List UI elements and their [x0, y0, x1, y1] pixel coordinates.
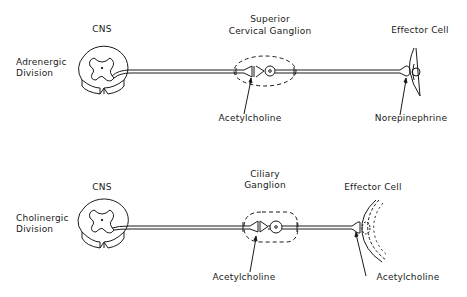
division-label-bottom-line1: Cholinergic: [16, 213, 69, 224]
postganglionic-axon-bottom: [297, 226, 352, 229]
division-label-top-line2: Division: [16, 68, 53, 79]
cns-spinal-cord-top: [79, 46, 128, 94]
ganglion-label-bottom-line2: Ganglion: [244, 180, 286, 191]
cns-spinal-cord-bottom: [78, 199, 128, 248]
ganglion-transmitter-top: Acetylcholine: [219, 113, 282, 124]
arrows-bottom: [250, 232, 366, 276]
ganglion-label-top-line2: Cervical Ganglion: [229, 26, 312, 37]
effector-label-bottom: Effector Cell: [344, 182, 402, 193]
postganglionic-axon-top: [295, 70, 400, 73]
diagram-canvas: [0, 0, 467, 297]
effector-label-top: Effector Cell: [391, 25, 449, 36]
preganglionic-axon-bottom: [112, 226, 244, 230]
effector-cell-bottom: [352, 200, 388, 262]
cns-label-bottom: CNS: [92, 182, 111, 193]
ganglion-label-top-line1: Superior: [250, 14, 290, 25]
ganglion-bottom: [243, 212, 298, 242]
division-label-bottom-line2: Division: [16, 224, 53, 235]
effector-cell-top: [400, 48, 420, 96]
cns-label-top: CNS: [92, 24, 111, 35]
effector-transmitter-bottom: Acetylcholine: [377, 272, 440, 283]
preganglionic-axon-top: [112, 70, 238, 78]
arrows-top: [244, 78, 407, 115]
ganglion-top: [234, 56, 296, 86]
division-label-top-line1: Adrenergic: [16, 57, 67, 68]
ganglion-transmitter-bottom: Acetylcholine: [213, 272, 276, 283]
effector-transmitter-top: Norepinephrine: [375, 113, 447, 124]
ganglion-label-bottom-line1: Ciliary: [250, 169, 280, 180]
